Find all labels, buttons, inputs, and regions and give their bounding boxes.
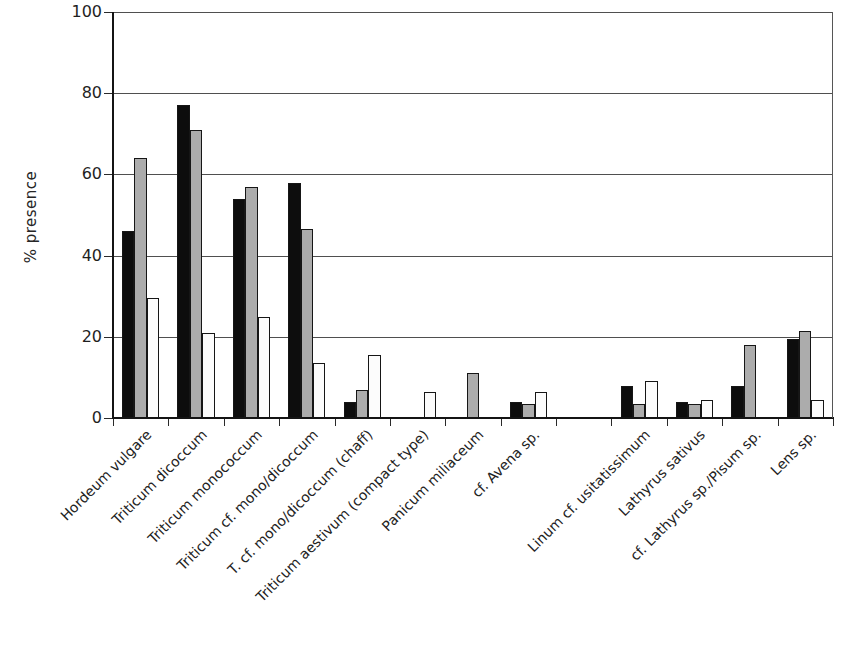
- x-tick-mark: [667, 419, 668, 426]
- x-tick-mark: [611, 419, 612, 426]
- bar-white: [701, 400, 713, 418]
- x-tick-mark: [445, 419, 446, 426]
- plot-right-border: [832, 12, 833, 418]
- bar-group: [279, 12, 334, 418]
- bar-grey: [301, 229, 313, 418]
- bar-grey: [799, 331, 811, 418]
- x-tick-mark: [778, 419, 779, 426]
- y-axis-line: [112, 12, 114, 419]
- bar-white: [645, 381, 657, 418]
- x-axis-line: [112, 417, 834, 419]
- bar-grey: [134, 158, 146, 418]
- y-tick-label: 100: [42, 3, 102, 21]
- y-tick-mark: [104, 418, 112, 419]
- bar-group: [722, 12, 777, 418]
- x-tick-mark: [113, 419, 114, 426]
- x-tick-mark: [279, 419, 280, 426]
- bar-group: [501, 12, 556, 418]
- bar-black: [177, 105, 189, 418]
- y-tick-mark: [104, 174, 112, 175]
- bar-black: [288, 183, 300, 418]
- y-tick-label: 0: [42, 409, 102, 427]
- x-tick-mark: [556, 419, 557, 426]
- bar-grey: [744, 345, 756, 418]
- y-tick-label: 40: [42, 247, 102, 265]
- bar-white: [424, 392, 436, 418]
- bar-grey: [522, 404, 534, 418]
- bar-white: [535, 392, 547, 418]
- bar-black: [344, 402, 356, 418]
- x-tick-mark: [390, 419, 391, 426]
- x-tick-mark: [501, 419, 502, 426]
- bar-white: [147, 298, 159, 418]
- bar-black: [787, 339, 799, 418]
- bar-white: [811, 400, 823, 418]
- bar-grey: [245, 187, 257, 418]
- y-tick-label: 60: [42, 165, 102, 183]
- x-tick-mark: [833, 419, 834, 426]
- x-category-label: Lens sp.: [767, 425, 820, 478]
- bar-black: [621, 386, 633, 418]
- bar-grey: [356, 390, 368, 418]
- bar-white: [202, 333, 214, 418]
- x-category-label: Triticum dicoccum: [109, 425, 212, 528]
- bar-grey: [688, 404, 700, 418]
- y-tick-mark: [104, 337, 112, 338]
- x-category-label: Hordeum vulgare: [57, 425, 156, 524]
- bar-group: [390, 12, 445, 418]
- bar-black: [731, 386, 743, 418]
- bar-white: [258, 317, 270, 419]
- x-tick-mark: [168, 419, 169, 426]
- x-category-label: Panicum miliaceum: [379, 425, 488, 534]
- bar-group: [556, 12, 611, 418]
- y-tick-label: 80: [42, 84, 102, 102]
- bar-group: [778, 12, 833, 418]
- x-tick-mark: [335, 419, 336, 426]
- bar-group: [335, 12, 390, 418]
- bar-grey: [633, 404, 645, 418]
- x-tick-mark: [722, 419, 723, 426]
- bar-black: [676, 402, 688, 418]
- y-axis-title: % presence: [22, 152, 40, 282]
- bar-group: [667, 12, 722, 418]
- bar-group: [168, 12, 223, 418]
- bar-black: [510, 402, 522, 418]
- bar-grey: [190, 130, 202, 418]
- y-tick-label: 20: [42, 328, 102, 346]
- bar-group: [113, 12, 168, 418]
- y-tick-mark: [104, 256, 112, 257]
- bar-grey: [467, 373, 479, 418]
- bar-group: [224, 12, 279, 418]
- bar-group: [611, 12, 666, 418]
- bar-chart: % presence 020406080100Hordeum vulgareTr…: [0, 0, 845, 649]
- y-tick-mark: [104, 93, 112, 94]
- x-tick-mark: [224, 419, 225, 426]
- bar-black: [122, 231, 134, 418]
- bar-group: [445, 12, 500, 418]
- bar-white: [313, 363, 325, 418]
- y-tick-mark: [104, 12, 112, 13]
- bar-black: [233, 199, 245, 418]
- bar-white: [368, 355, 380, 418]
